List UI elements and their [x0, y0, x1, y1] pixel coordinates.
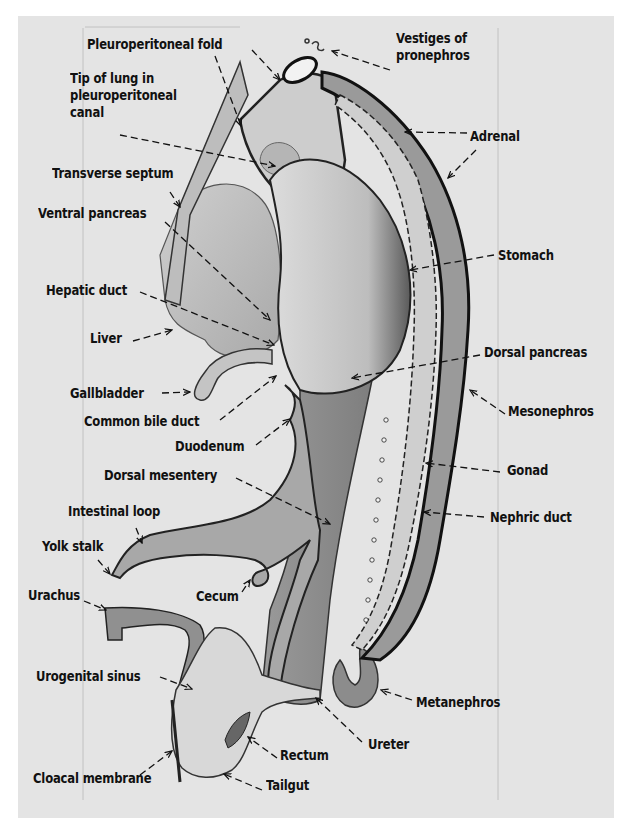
leader-duodenum [256, 419, 290, 445]
gallbladder-shape [195, 349, 272, 400]
label-vestiges-of-pronephros: Vestiges of pronephros [396, 30, 470, 64]
leader-transverse-septum [170, 192, 180, 207]
label-pleuroperitoneal-fold: Pleuroperitoneal fold [87, 36, 222, 53]
label-cecum: Cecum [196, 588, 239, 605]
label-gonad: Gonad [507, 462, 548, 479]
leader-metanephros [381, 690, 412, 700]
label-hepatic-duct: Hepatic duct [46, 282, 127, 299]
leader-mesonephros [470, 390, 505, 414]
label-yolk-stalk: Yolk stalk [42, 538, 103, 555]
label-urachus: Urachus [28, 587, 80, 604]
label-intestinal-loop: Intestinal loop [68, 503, 160, 520]
label-tip-of-lung: Tip of lung in pleuroperitoneal canal [70, 70, 177, 121]
label-stomach: Stomach [498, 247, 554, 264]
leader-urachus [84, 601, 106, 610]
label-gallbladder: Gallbladder [70, 385, 144, 402]
label-ventral-pancreas: Ventral pancreas [38, 205, 147, 222]
label-ureter: Ureter [368, 736, 409, 753]
label-tailgut: Tailgut [266, 777, 309, 794]
label-cloacal-membrane: Cloacal membrane [33, 770, 151, 787]
label-transverse-septum: Transverse septum [52, 165, 173, 182]
label-nephric-duct: Nephric duct [490, 509, 572, 526]
leader-adrenal [405, 132, 467, 133]
pronephros-vestiges [305, 39, 324, 50]
label-liver: Liver [90, 330, 122, 347]
label-common-bile-duct: Common bile duct [84, 413, 199, 430]
leader-tailgut [224, 774, 262, 790]
leader-cecum [242, 580, 250, 592]
leader-common-bile-duct [220, 376, 276, 420]
leader-vestiges-of-pronephros [332, 51, 390, 70]
label-adrenal: Adrenal [470, 128, 520, 145]
leader-liver [133, 330, 172, 341]
label-duodenum: Duodenum [175, 438, 244, 455]
leader-yolk-stalk [98, 560, 110, 574]
leader-gallbladder [162, 392, 190, 393]
label-dorsal-mesentery: Dorsal mesentery [104, 467, 217, 484]
stomach-shape [270, 160, 410, 394]
label-metanephros: Metanephros [416, 694, 500, 711]
leader-rectum [248, 737, 277, 758]
leader-adrenal-2 [448, 150, 476, 178]
label-mesonephros: Mesonephros [508, 403, 594, 420]
label-rectum: Rectum [280, 747, 329, 764]
label-urogenital-sinus: Urogenital sinus [36, 668, 141, 685]
leader-pleuroperitoneal-fold [252, 50, 280, 80]
label-dorsal-pancreas: Dorsal pancreas [484, 344, 587, 361]
